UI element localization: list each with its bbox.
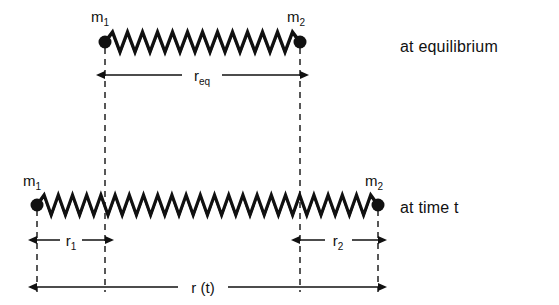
mass-m1-equilibrium <box>99 36 112 49</box>
label-m2-time-t: m2 <box>365 172 384 192</box>
mass-m2-time-t <box>372 199 385 212</box>
dimension-r1: r1 <box>37 232 105 252</box>
spring-time-t <box>37 195 378 217</box>
label-r-eq: req <box>194 67 210 87</box>
caption-at-equilibrium: at equilibrium <box>400 38 498 55</box>
label-r2: r2 <box>333 232 344 252</box>
label-m1-equilibrium: m1 <box>91 8 110 28</box>
label-m2-equilibrium: m2 <box>287 8 306 28</box>
spring-equilibrium <box>105 32 300 54</box>
mass-m1-time-t <box>31 199 44 212</box>
mass-m2-equilibrium <box>294 36 307 49</box>
dimension-r2: r2 <box>300 232 378 252</box>
caption-at-time-t: at time t <box>400 199 459 216</box>
equilibrium-row: m1 m2 req at equilibrium <box>91 8 498 87</box>
dimension-r-eq: req <box>105 67 300 87</box>
label-r1: r1 <box>66 232 77 252</box>
label-r-of-t: r (t) <box>191 279 214 296</box>
label-m1-time-t: m1 <box>23 172 42 192</box>
time-t-row: m1 m2 r1 r2 r (t) at time t <box>23 172 459 296</box>
spring-oscillator-figure: m1 m2 req at equilibrium m1 m2 <box>0 0 559 305</box>
dimension-r-of-t: r (t) <box>37 279 378 296</box>
